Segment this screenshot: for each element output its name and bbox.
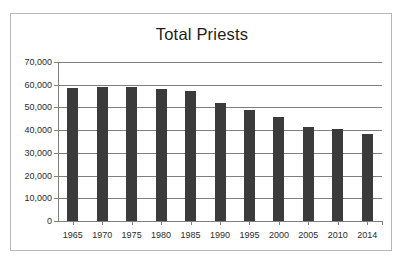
y-axis-tick-label: 40,000: [24, 125, 52, 135]
y-axis-tick-label: 70,000: [24, 57, 52, 67]
x-axis-tick: [220, 221, 221, 225]
y-axis-tick: [54, 176, 58, 177]
y-axis-tick-label: 30,000: [24, 148, 52, 158]
x-axis-tick: [132, 221, 133, 225]
x-axis-tick-label: 1965: [63, 230, 83, 240]
x-axis-tick-label: 1980: [151, 230, 171, 240]
bar: [156, 89, 167, 221]
y-axis-tick-label: 50,000: [24, 102, 52, 112]
x-axis-tick-label: 2014: [357, 230, 377, 240]
y-axis-tick-label: 20,000: [24, 171, 52, 181]
bar: [303, 127, 314, 221]
gridline: [58, 62, 382, 63]
bar: [185, 91, 196, 221]
x-axis-tick: [102, 221, 103, 225]
y-axis-tick-label: 10,000: [24, 193, 52, 203]
x-axis-tick-label: 1995: [239, 230, 259, 240]
x-axis-tick: [308, 221, 309, 225]
y-axis-tick-label: 0: [47, 216, 52, 226]
bar: [332, 129, 343, 221]
x-axis-tick-label: 1990: [210, 230, 230, 240]
bar: [97, 87, 108, 221]
y-axis-tick: [54, 62, 58, 63]
chart-title: Total Priests: [11, 25, 393, 44]
x-axis-tick-label: 2000: [269, 230, 289, 240]
bar: [67, 88, 78, 221]
bar: [215, 103, 226, 221]
y-axis-line: [58, 62, 59, 221]
bar: [244, 110, 255, 221]
x-axis-tick: [191, 221, 192, 225]
x-axis-tick-label: 1975: [122, 230, 142, 240]
x-axis-tick: [249, 221, 250, 225]
chart-figure: Total Priests 010,00020,00030,00040,0005…: [0, 0, 407, 265]
plot-area: 010,00020,00030,00040,00050,00060,00070,…: [58, 62, 382, 221]
y-axis-tick: [54, 130, 58, 131]
x-axis-tick: [279, 221, 280, 225]
x-axis-tick-label: 2005: [298, 230, 318, 240]
bar: [362, 134, 373, 221]
x-axis-tick: [367, 221, 368, 225]
y-axis-tick: [54, 107, 58, 108]
bar: [273, 117, 284, 221]
y-axis-tick: [54, 198, 58, 199]
y-axis-tick: [54, 153, 58, 154]
x-axis-tick: [161, 221, 162, 225]
x-axis-end-tick: [382, 221, 383, 225]
x-axis-tick-label: 1970: [92, 230, 112, 240]
y-axis-tick-label: 60,000: [24, 80, 52, 90]
x-axis-tick-label: 2010: [328, 230, 348, 240]
bar: [126, 87, 137, 221]
chart-frame: Total Priests 010,00020,00030,00040,0005…: [10, 13, 392, 251]
y-axis-tick: [54, 85, 58, 86]
gridline: [58, 85, 382, 86]
x-axis-tick: [73, 221, 74, 225]
x-axis-tick: [338, 221, 339, 225]
x-axis-tick-label: 1985: [181, 230, 201, 240]
y-axis-tick: [54, 221, 58, 222]
